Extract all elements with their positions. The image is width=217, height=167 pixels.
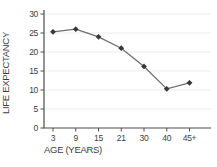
y-tick-label: 25: [29, 28, 38, 38]
y-tick-label: 5: [34, 104, 39, 114]
x-tick-label: 15: [94, 133, 103, 143]
data-point-marker: [73, 26, 79, 32]
data-point-marker: [50, 29, 56, 35]
y-tick-label: 15: [29, 66, 38, 76]
x-tick-label: 30: [140, 133, 149, 143]
y-axis-title: LIFE EXPECTANCY: [0, 31, 11, 114]
x-tick-label: 9: [74, 133, 79, 143]
x-tick-label: 45+: [183, 133, 197, 143]
series-line: [53, 29, 190, 89]
line-chart: 051015202530 391521304045+ LIFE EXPECTAN…: [0, 0, 217, 167]
y-tick-label: 10: [29, 85, 38, 95]
data-points: [50, 26, 192, 91]
x-tick-label: 40: [162, 133, 171, 143]
y-tick-label: 0: [34, 123, 39, 133]
y-tick-label: 30: [29, 9, 38, 19]
line-chart-svg: 051015202530 391521304045+ LIFE EXPECTAN…: [0, 0, 217, 167]
x-axis-ticks: 391521304045+: [51, 128, 197, 143]
y-tick-label: 20: [29, 47, 38, 57]
x-tick-label: 3: [51, 133, 56, 143]
data-point-marker: [96, 34, 102, 40]
axes: [44, 10, 211, 128]
gridlines: [45, 14, 211, 109]
y-axis-ticks: 051015202530: [29, 9, 44, 133]
x-axis-title: AGE (YEARS): [44, 144, 102, 155]
x-tick-label: 21: [117, 133, 126, 143]
data-point-marker: [187, 80, 193, 86]
